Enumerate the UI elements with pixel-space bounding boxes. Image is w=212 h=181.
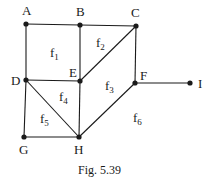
vertex-I (187, 80, 192, 85)
edge-EH (79, 81, 80, 137)
vertex-label-A: A (22, 3, 32, 18)
edge-AB (26, 24, 80, 25)
face-label-f3: f3 (105, 78, 114, 95)
vertex-D (23, 77, 28, 82)
vertex-label-I: I (198, 76, 202, 91)
face-label-f4: f4 (59, 89, 68, 106)
vertex-H (76, 134, 81, 139)
vertex-label-C: C (131, 5, 140, 20)
vertex-F (132, 80, 137, 85)
edge-DH (26, 80, 79, 137)
vertex-label-B: B (76, 4, 85, 19)
vertex-label-E: E (69, 65, 77, 80)
vertex-E (77, 78, 82, 83)
edge-DE (26, 80, 80, 81)
vertex-A (23, 21, 28, 26)
face-label-f6: f6 (133, 110, 142, 127)
edge-DG (24, 80, 26, 137)
vertex-C (133, 23, 138, 28)
face-label-f1: f1 (50, 45, 59, 62)
face-labels: f1f2f3f4f5f6 (40, 35, 142, 128)
edge-BC (80, 25, 136, 26)
vertex-label-H: H (74, 142, 83, 157)
vertex-label-F: F (140, 68, 147, 83)
vertex-G (21, 134, 26, 139)
edge-CF (135, 26, 136, 83)
face-label-f2: f2 (96, 35, 105, 52)
vertex-B (77, 22, 82, 27)
vertex-label-D: D (11, 73, 20, 88)
face-label-f5: f5 (40, 111, 49, 128)
figure-caption: Fig. 5.39 (78, 163, 121, 177)
vertex-label-G: G (19, 142, 28, 157)
edge-CE (80, 26, 136, 81)
graph-diagram: ABCDEFIGH f1f2f3f4f5f6 Fig. 5.39 (0, 0, 212, 181)
